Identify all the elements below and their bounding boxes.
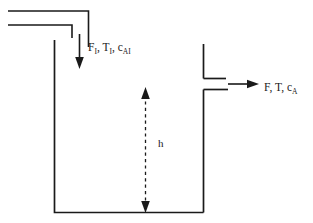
tank-vessel <box>55 40 204 213</box>
inlet-arrow-head <box>75 57 84 69</box>
tank-diagram: FI, TI, cAI F, T, cA h <box>0 0 313 223</box>
level-arrow-head-up <box>141 87 150 99</box>
liquid-level-dimension-arrow <box>141 87 150 213</box>
inlet-pipe-outer-wall <box>8 11 89 47</box>
outlet-flow-symbol: F <box>264 81 269 93</box>
outlet-concentration-subscript: A <box>292 87 297 96</box>
inlet-temperature-subscript: I <box>109 47 112 56</box>
inlet-stream-label: FI, TI, cAI <box>88 42 131 54</box>
tank-diagram-svg <box>0 0 313 223</box>
outlet-arrow-head <box>247 80 259 89</box>
liquid-level-label: h <box>158 138 164 149</box>
inlet-concentration-subscript: AI <box>123 47 131 56</box>
inlet-flow-subscript: I <box>94 47 97 56</box>
outlet-temperature-symbol: T <box>275 81 281 93</box>
outlet-flow-arrow <box>228 80 259 89</box>
inlet-pipe-inner-wall <box>8 25 72 38</box>
inlet-pipe <box>8 11 89 47</box>
outlet-pipe <box>204 79 229 90</box>
tank-left-wall-and-bottom <box>55 40 204 213</box>
outlet-stream-label: F, T, cA <box>264 82 297 94</box>
inlet-flow-arrow <box>75 34 84 69</box>
level-arrow-head-down <box>141 201 150 213</box>
